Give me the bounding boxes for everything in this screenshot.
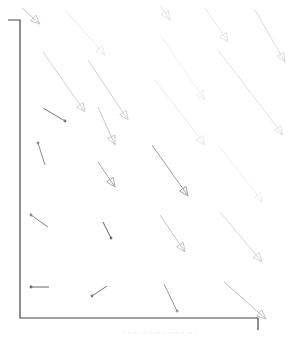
vector-arrow: [43, 52, 85, 112]
vector-arrow: [218, 50, 283, 135]
vector-arrow: [255, 10, 285, 62]
arrowhead-icon: [176, 310, 179, 313]
arrowhead-icon: [277, 52, 285, 62]
vector-arrow: [160, 215, 185, 252]
arrowhead-icon: [91, 295, 94, 298]
figure-caption: · · ··· ·· · ····· ···· ·· ·· ·: [95, 329, 225, 336]
arrowhead-icon: [64, 120, 67, 123]
vector-arrow: [160, 5, 170, 20]
vector-arrow: [22, 8, 40, 24]
vector-arrow: [43, 108, 66, 122]
arrowhead-icon: [110, 237, 113, 240]
vector-arrow: [103, 222, 112, 239]
vector-arrow: [98, 162, 115, 187]
vector-arrow: [65, 10, 105, 55]
arrow-layer: [22, 5, 285, 319]
arrowhead-icon: [30, 214, 33, 217]
vector-arrow: [98, 107, 115, 145]
arrowhead-icon: [30, 286, 33, 289]
arrowhead-icon: [37, 142, 40, 145]
vector-arrow: [37, 142, 45, 165]
vector-arrow: [30, 286, 49, 289]
vector-arrow: [160, 35, 205, 100]
vector-field-diagram: [0, 0, 301, 342]
axis-frame: [8, 20, 258, 330]
vector-arrow: [164, 284, 178, 312]
vector-arrow: [220, 212, 262, 262]
vector-arrow: [30, 214, 48, 227]
vector-arrow: [205, 8, 228, 42]
vector-arrow: [218, 145, 263, 202]
vector-arrow: [91, 286, 107, 297]
vector-arrow: [224, 282, 266, 319]
vector-arrow: [152, 145, 188, 196]
arrowhead-icon: [108, 135, 115, 145]
vector-arrow: [88, 60, 128, 120]
